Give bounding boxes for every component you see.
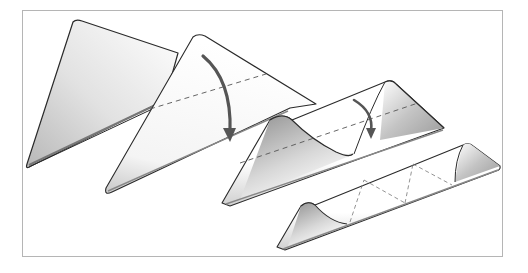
folding-illustration: Triangle (flat)	[0, 0, 528, 273]
